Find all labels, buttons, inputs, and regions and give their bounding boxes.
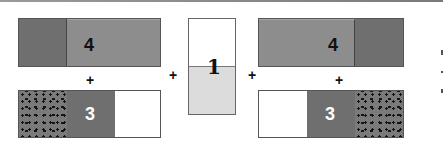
left-top-mid-segment [67,19,160,66]
left-bottom-white-segment [115,91,160,137]
center-label: 1 [207,55,221,79]
right-bottom-label: 3 [325,104,335,125]
right-plus-sign: + [335,72,343,88]
left-top-dark-segment [19,19,67,66]
plus-sign-1: + [169,67,177,83]
left-bottom-dotted-segment [19,91,67,137]
left-bottom-label: 3 [85,104,95,125]
right-top-dark-segment [355,19,403,66]
right-top-label: 4 [328,35,338,56]
right-top-mid-segment [259,19,355,66]
right-bottom-white-segment [259,91,307,137]
plus-sign-2: + [248,67,256,83]
left-top-label: 4 [84,35,94,56]
left-plus-sign: + [86,72,94,88]
top-border-line [0,0,443,2]
right-bottom-dotted-segment [355,91,403,137]
